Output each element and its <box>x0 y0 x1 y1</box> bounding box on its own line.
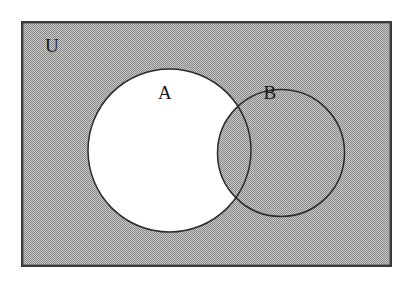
venn-diagram-figure: U A B <box>0 0 414 284</box>
region-a-minus-b-fill <box>22 22 391 266</box>
set-a-label: A <box>158 82 172 103</box>
set-b-label: B <box>264 82 277 103</box>
universe-label: U <box>45 35 59 56</box>
universe-interior <box>22 22 391 266</box>
venn-diagram-canvas: U A B <box>0 0 414 284</box>
